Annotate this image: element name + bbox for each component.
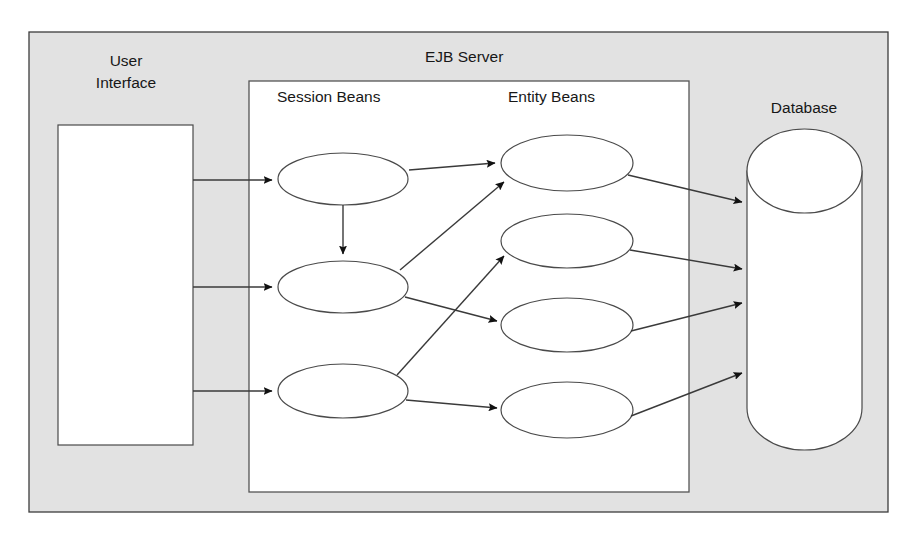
database-label: Database bbox=[771, 99, 837, 116]
session-beans-label: Session Beans bbox=[277, 88, 381, 105]
ejb-server-label: EJB Server bbox=[425, 48, 503, 65]
entity-bean-4[interactable] bbox=[501, 382, 633, 438]
entity-bean-3[interactable] bbox=[501, 298, 633, 352]
session-bean-2[interactable] bbox=[278, 261, 408, 313]
diagram-page: EJB Server Session Beans Entity Beans Us… bbox=[0, 0, 915, 541]
database-cylinder-top bbox=[747, 129, 862, 213]
session-bean-1[interactable] bbox=[278, 153, 408, 205]
entity-bean-2[interactable] bbox=[501, 214, 633, 268]
user-interface-label-line1: User bbox=[110, 52, 143, 69]
entity-beans-label: Entity Beans bbox=[508, 88, 595, 105]
user-interface-label-line2: Interface bbox=[96, 74, 156, 91]
session-bean-3[interactable] bbox=[278, 364, 408, 418]
entity-bean-1[interactable] bbox=[501, 135, 633, 191]
user-interface-box[interactable] bbox=[58, 125, 193, 445]
ejb-architecture-diagram: EJB Server Session Beans Entity Beans Us… bbox=[0, 0, 915, 541]
